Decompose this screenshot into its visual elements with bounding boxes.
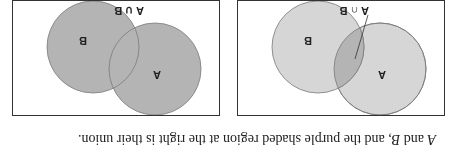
operation-label: A ∪ B <box>114 5 144 17</box>
set-b-label: B <box>79 35 87 47</box>
intersection-panel: A B A ∩ B <box>237 0 445 116</box>
union-panel: A B A ∪ B <box>12 0 220 116</box>
caption-text-mid: and <box>400 132 427 147</box>
set-a-label: A <box>378 69 386 81</box>
operation-label: A ∩ B <box>339 5 369 17</box>
caption-text-end: , and the purple shaded region at the ri… <box>78 132 392 147</box>
set-b-label: B <box>304 35 312 47</box>
intersection-venn-diagram: A B A ∩ B <box>237 0 444 115</box>
figure: A B A ∩ B A B A ∪ B A and B, and the pur… <box>0 0 450 153</box>
figure-caption: A and B, and the purple shaded region at… <box>6 131 436 147</box>
set-a-label: A <box>153 69 161 81</box>
caption-var-a: A <box>427 132 436 147</box>
caption-var-b: B <box>392 132 401 147</box>
union-venn-diagram: A B A ∪ B <box>12 0 219 115</box>
